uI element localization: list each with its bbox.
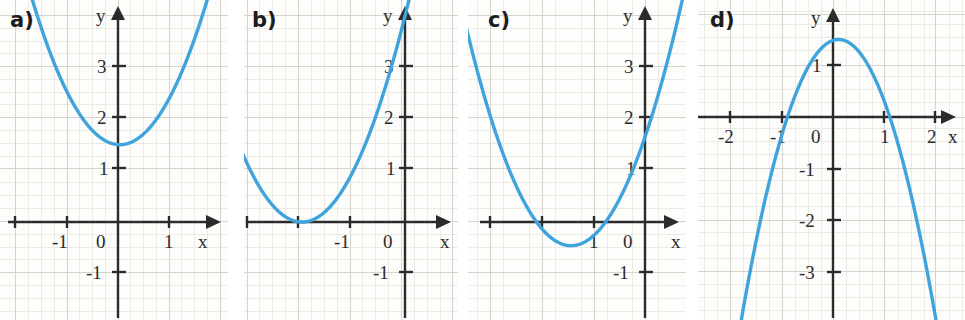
panel-c-plot: x y 1 0 3 2 1 -1 — [468, 0, 686, 320]
x-axis-label-b: x — [440, 231, 450, 252]
y-tick-label-a-1: 2 — [97, 107, 107, 128]
grid-b — [244, 0, 458, 320]
grid-c — [468, 0, 686, 320]
y-tick-label-c-1: 2 — [624, 107, 634, 128]
y-axis-arrow-c — [638, 6, 652, 20]
panel-label-d: d) — [710, 10, 735, 31]
y-tick-label-d-2: -2 — [799, 210, 815, 231]
x-tick-label-d-3: 1 — [880, 126, 890, 147]
y-axis-label-a: y — [96, 5, 106, 26]
y-tick-label-a-0: 3 — [97, 56, 107, 77]
figure-sheet: x y -1 0 1 3 2 1 -1 a) — [0, 0, 965, 320]
panel-a-plot: x y -1 0 1 3 2 1 -1 — [0, 0, 228, 320]
panel-gap-bc — [458, 0, 468, 320]
y-tick-label-a-3: -1 — [86, 262, 102, 283]
y-axis-label-c: y — [623, 5, 633, 26]
panel-b: x y -1 0 3 2 1 -1 b) — [244, 0, 458, 320]
parabola-curve-d — [741, 40, 936, 320]
panel-gap-cd — [686, 0, 698, 320]
y-axis-label-b: y — [383, 5, 393, 26]
x-tick-label-c-1: 0 — [623, 231, 633, 252]
x-axis-label-a: x — [198, 231, 208, 252]
y-tick-label-b-2: 1 — [386, 158, 396, 179]
x-axis-label-d: x — [948, 126, 958, 147]
panel-label-b: b) — [252, 10, 277, 31]
x-axis-arrow-d — [941, 110, 956, 124]
y-tick-label-c-3: -1 — [613, 262, 629, 283]
panel-c: x y 1 0 3 2 1 -1 c) — [468, 0, 686, 320]
y-tick-label-d-1: -1 — [799, 159, 815, 180]
x-tick-label-d-4: 2 — [927, 126, 937, 147]
x-tick-label-d-2: 0 — [811, 126, 821, 147]
panel-a: x y -1 0 1 3 2 1 -1 a) — [0, 0, 228, 320]
panel-b-plot: x y -1 0 3 2 1 -1 — [244, 0, 458, 320]
panel-label-a: a) — [10, 10, 34, 31]
x-tick-label-b-1: 0 — [383, 231, 393, 252]
y-tick-label-c-0: 3 — [624, 56, 634, 77]
panel-d: x y -2 -1 0 1 2 1 -1 -2 -3 d) — [698, 0, 965, 320]
x-tick-label-a-0: -1 — [52, 231, 68, 252]
x-axis-arrow-a — [206, 215, 221, 229]
y-tick-label-b-1: 2 — [384, 107, 394, 128]
y-axis-arrow-a — [111, 6, 125, 20]
panel-d-plot: x y -2 -1 0 1 2 1 -1 -2 -3 — [698, 0, 965, 320]
panel-gap-ab — [228, 0, 244, 320]
x-tick-label-a-2: 1 — [164, 231, 174, 252]
x-axis-arrow-b — [436, 215, 451, 229]
x-axis-label-c: x — [671, 231, 681, 252]
x-tick-label-b-0: -1 — [334, 231, 350, 252]
x-axis-arrow-c — [664, 215, 679, 229]
y-tick-label-d-3: -3 — [799, 262, 815, 283]
y-tick-label-a-2: 1 — [99, 158, 109, 179]
y-axis-label-d: y — [811, 7, 821, 28]
y-tick-label-b-3: -1 — [373, 262, 389, 283]
panel-label-c: c) — [488, 10, 510, 31]
x-tick-label-a-1: 0 — [96, 231, 106, 252]
x-tick-label-d-0: -2 — [718, 126, 734, 147]
